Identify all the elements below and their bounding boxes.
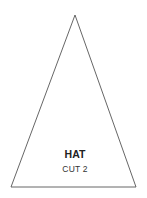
piece-label: HAT bbox=[65, 148, 86, 160]
hat-pattern-piece bbox=[11, 15, 136, 187]
cut-instruction: CUT 2 bbox=[62, 164, 87, 174]
pattern-diagram: HAT CUT 2 bbox=[0, 0, 147, 198]
